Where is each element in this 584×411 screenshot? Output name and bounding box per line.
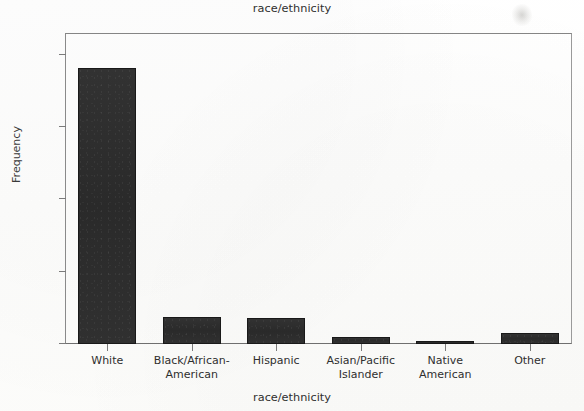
x-tick-mark xyxy=(192,344,193,351)
x-tick-label: Asian/Pacific Islander xyxy=(319,354,404,381)
bar-black-african-american xyxy=(163,317,221,344)
y-tick-mark xyxy=(59,343,66,344)
chart-title: race/ethnicity xyxy=(0,2,584,15)
x-axis-label: race/ethnicity xyxy=(0,391,584,404)
y-tick-mark xyxy=(59,271,66,272)
x-tick-label: White xyxy=(65,354,150,368)
x-tick-label: Other xyxy=(488,354,573,368)
chart-figure: race/ethnicity Frequency 0200400600800 W… xyxy=(0,0,584,411)
x-tick-mark xyxy=(530,344,531,351)
x-tick-label: Black/African- American xyxy=(150,354,235,381)
plot-area-frame xyxy=(65,33,572,344)
y-tick-mark xyxy=(59,126,66,127)
bar-white xyxy=(78,68,136,344)
bar-asian-pacific-islander xyxy=(332,337,390,344)
y-axis-label: Frequency xyxy=(10,95,23,215)
x-tick-mark xyxy=(361,344,362,351)
x-tick-label: Hispanic xyxy=(234,354,319,368)
bar-hispanic xyxy=(247,318,305,344)
x-tick-label: Native American xyxy=(403,354,488,381)
x-tick-mark xyxy=(107,344,108,351)
x-tick-mark xyxy=(445,344,446,351)
x-tick-mark xyxy=(276,344,277,351)
bar-other xyxy=(501,333,559,344)
y-tick-mark xyxy=(59,54,66,55)
y-tick-mark xyxy=(59,198,66,199)
